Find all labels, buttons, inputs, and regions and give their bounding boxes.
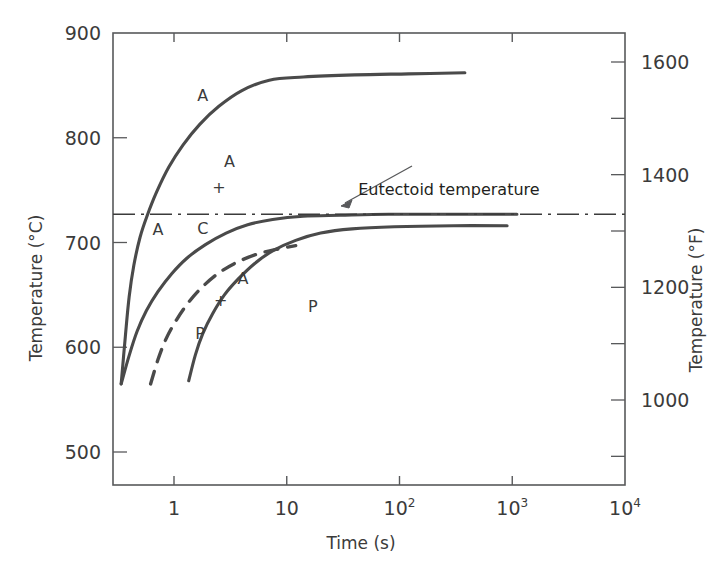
plot-svg: 110102103104 900800700600500 16001400120… <box>0 0 722 576</box>
region-austenite-unstable-label: A <box>224 152 235 171</box>
region-plus-lower-label: + <box>214 291 227 310</box>
eutectoid-temperature-label: Eutectoid temperature <box>358 180 539 199</box>
x-tick-label-1: 10 <box>275 497 299 519</box>
region-pearlite-right-label: P <box>308 297 318 316</box>
region-coarse-pearlite-label: C <box>197 219 208 238</box>
y-left-tick-label-0: 900 <box>65 22 101 44</box>
region-austenite-stable-label: A <box>197 86 208 105</box>
x-axis-title: Time (s) <box>325 533 395 553</box>
x-tick-label-0: 1 <box>168 497 180 519</box>
region-austenite-lower-label: A <box>238 269 249 288</box>
y-left-tick-label-4: 500 <box>65 441 101 463</box>
y-right-tick-label-2: 1400 <box>641 164 689 186</box>
phase-transformation-diagram: 110102103104 900800700600500 16001400120… <box>0 0 722 576</box>
region-pearlite-left-label: P <box>195 324 205 343</box>
y-axis-left-title: Temperature (°C) <box>26 215 46 363</box>
y-axis-right-title: Temperature (°F) <box>686 228 706 374</box>
y-left-tick-label-2: 700 <box>65 232 101 254</box>
canvas-background <box>0 0 722 576</box>
y-right-tick-label-6: 1000 <box>641 389 689 411</box>
region-plus-upper-label: + <box>212 178 225 197</box>
region-austenite-left-label: A <box>152 220 163 239</box>
y-left-tick-label-1: 800 <box>65 127 101 149</box>
y-left-tick-label-3: 600 <box>65 336 101 358</box>
y-right-tick-label-4: 1200 <box>641 276 689 298</box>
y-right-tick-label-0: 1600 <box>641 51 689 73</box>
